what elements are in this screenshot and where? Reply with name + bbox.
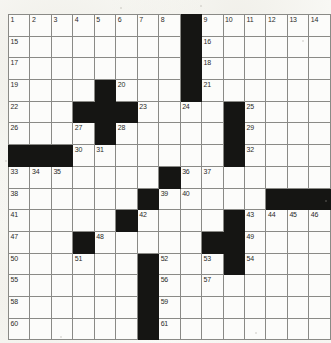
crossword-cell[interactable]	[223, 36, 244, 58]
crossword-cell[interactable]	[244, 275, 265, 297]
crossword-cell[interactable]	[116, 296, 137, 318]
crossword-cell[interactable]	[159, 36, 180, 58]
crossword-cell[interactable]: 15	[9, 36, 30, 58]
crossword-cell[interactable]	[30, 58, 51, 80]
crossword-cell[interactable]: 53	[202, 253, 223, 275]
crossword-cell[interactable]	[51, 210, 72, 232]
crossword-cell[interactable]	[116, 58, 137, 80]
crossword-cell[interactable]	[202, 123, 223, 145]
crossword-cell[interactable]	[159, 145, 180, 167]
crossword-cell[interactable]	[30, 80, 51, 102]
crossword-cell[interactable]	[202, 318, 223, 340]
crossword-cell[interactable]	[51, 80, 72, 102]
crossword-cell[interactable]	[30, 210, 51, 232]
crossword-cell[interactable]	[223, 166, 244, 188]
crossword-cell[interactable]	[137, 123, 158, 145]
crossword-cell[interactable]: 56	[159, 275, 180, 297]
crossword-cell[interactable]	[51, 296, 72, 318]
crossword-cell[interactable]	[266, 231, 287, 253]
crossword-cell[interactable]	[202, 188, 223, 210]
crossword-cell[interactable]: 32	[244, 145, 265, 167]
crossword-grid-container[interactable]: 1234567891011121314151617181920212223242…	[8, 14, 331, 340]
crossword-cell[interactable]	[30, 36, 51, 58]
crossword-cell[interactable]	[30, 231, 51, 253]
crossword-cell[interactable]	[30, 101, 51, 123]
crossword-cell[interactable]	[116, 36, 137, 58]
crossword-cell[interactable]	[94, 36, 115, 58]
crossword-cell[interactable]	[116, 275, 137, 297]
crossword-cell[interactable]: 22	[9, 101, 30, 123]
crossword-cell[interactable]	[51, 231, 72, 253]
crossword-cell[interactable]	[30, 188, 51, 210]
crossword-cell[interactable]: 33	[9, 166, 30, 188]
crossword-cell[interactable]	[202, 145, 223, 167]
crossword-cell[interactable]: 48	[94, 231, 115, 253]
crossword-cell[interactable]: 37	[202, 166, 223, 188]
crossword-cell[interactable]: 1	[9, 15, 30, 37]
crossword-cell[interactable]	[137, 145, 158, 167]
crossword-cell[interactable]: 24	[180, 101, 201, 123]
crossword-cell[interactable]	[309, 231, 331, 253]
crossword-cell[interactable]	[159, 210, 180, 232]
crossword-cell[interactable]	[94, 58, 115, 80]
crossword-cell[interactable]	[287, 166, 308, 188]
crossword-cell[interactable]	[266, 166, 287, 188]
crossword-cell[interactable]	[51, 318, 72, 340]
crossword-cell[interactable]: 26	[9, 123, 30, 145]
crossword-cell[interactable]	[30, 318, 51, 340]
crossword-cell[interactable]: 9	[202, 15, 223, 37]
crossword-cell[interactable]: 21	[202, 80, 223, 102]
crossword-cell[interactable]	[223, 275, 244, 297]
crossword-cell[interactable]	[309, 166, 331, 188]
crossword-cell[interactable]: 36	[180, 166, 201, 188]
crossword-cell[interactable]	[287, 318, 308, 340]
crossword-cell[interactable]	[309, 101, 331, 123]
crossword-cell[interactable]: 28	[116, 123, 137, 145]
crossword-cell[interactable]: 12	[266, 15, 287, 37]
crossword-cell[interactable]	[159, 101, 180, 123]
crossword-cell[interactable]: 16	[202, 36, 223, 58]
crossword-cell[interactable]: 49	[244, 231, 265, 253]
crossword-cell[interactable]: 13	[287, 15, 308, 37]
crossword-cell[interactable]: 51	[73, 253, 94, 275]
crossword-cell[interactable]	[137, 58, 158, 80]
crossword-cell[interactable]	[244, 188, 265, 210]
crossword-cell[interactable]	[309, 318, 331, 340]
crossword-cell[interactable]	[202, 210, 223, 232]
crossword-cell[interactable]: 42	[137, 210, 158, 232]
crossword-cell[interactable]: 29	[244, 123, 265, 145]
crossword-cell[interactable]	[309, 275, 331, 297]
crossword-cell[interactable]	[94, 210, 115, 232]
crossword-cell[interactable]	[94, 318, 115, 340]
crossword-cell[interactable]	[180, 145, 201, 167]
crossword-cell[interactable]	[180, 318, 201, 340]
crossword-cell[interactable]	[287, 101, 308, 123]
crossword-cell[interactable]	[51, 123, 72, 145]
crossword-cell[interactable]	[73, 80, 94, 102]
crossword-cell[interactable]: 27	[73, 123, 94, 145]
crossword-cell[interactable]	[116, 231, 137, 253]
crossword-cell[interactable]: 44	[266, 210, 287, 232]
crossword-cell[interactable]	[94, 275, 115, 297]
crossword-cell[interactable]	[266, 318, 287, 340]
crossword-grid[interactable]: 1234567891011121314151617181920212223242…	[8, 14, 331, 340]
crossword-cell[interactable]	[30, 123, 51, 145]
crossword-cell[interactable]	[266, 275, 287, 297]
crossword-cell[interactable]	[94, 188, 115, 210]
crossword-cell[interactable]	[180, 210, 201, 232]
crossword-cell[interactable]: 39	[159, 188, 180, 210]
crossword-cell[interactable]: 59	[159, 296, 180, 318]
crossword-cell[interactable]	[94, 296, 115, 318]
crossword-cell[interactable]: 57	[202, 275, 223, 297]
crossword-cell[interactable]: 18	[202, 58, 223, 80]
crossword-cell[interactable]: 10	[223, 15, 244, 37]
crossword-cell[interactable]	[266, 253, 287, 275]
crossword-cell[interactable]	[51, 58, 72, 80]
crossword-cell[interactable]: 20	[116, 80, 137, 102]
crossword-cell[interactable]	[51, 188, 72, 210]
crossword-cell[interactable]	[116, 166, 137, 188]
crossword-cell[interactable]	[266, 101, 287, 123]
crossword-cell[interactable]: 11	[244, 15, 265, 37]
crossword-cell[interactable]	[266, 58, 287, 80]
crossword-cell[interactable]: 52	[159, 253, 180, 275]
